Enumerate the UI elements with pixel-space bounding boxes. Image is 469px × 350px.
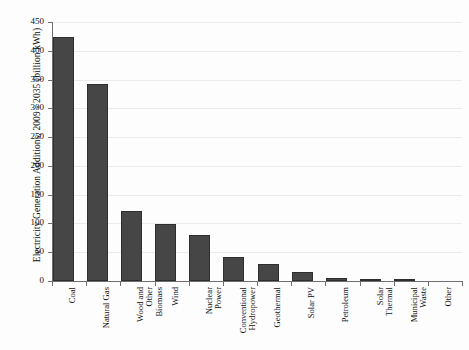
y-tick-label: 400 — [4, 46, 44, 55]
x-axis-tick-labels: CoalNatural GasWood andOtherBiomassWindN… — [52, 287, 462, 349]
y-tick-mark — [48, 137, 52, 138]
bar — [394, 279, 415, 281]
x-tick-label: Coal — [68, 287, 77, 349]
y-tick-label: 100 — [4, 218, 44, 227]
bars-layer — [52, 22, 462, 281]
y-tick-label: 250 — [4, 132, 44, 141]
x-tick-label: ConventionalHydropower — [239, 287, 258, 349]
bar — [292, 272, 313, 281]
x-tick-mark — [394, 281, 395, 286]
x-tick-label: MunicipalWaste — [410, 287, 429, 349]
bar — [223, 257, 244, 281]
x-tick-mark — [189, 281, 190, 286]
x-tick-mark — [86, 281, 87, 286]
y-tick-mark — [48, 195, 52, 196]
y-tick-label: 350 — [4, 75, 44, 84]
y-tick-label: 450 — [4, 17, 44, 26]
bar — [155, 224, 176, 281]
x-tick-mark — [257, 281, 258, 286]
x-tick-label: Natural Gas — [102, 287, 111, 349]
bar — [189, 235, 210, 281]
bar — [326, 278, 347, 281]
y-tick-mark — [48, 51, 52, 52]
x-tick-mark — [462, 281, 463, 286]
y-tick-label: 300 — [4, 103, 44, 112]
x-tick-label: Petroleum — [341, 287, 350, 349]
bar — [87, 84, 108, 281]
y-tick-mark — [48, 108, 52, 109]
y-tick-label: 50 — [4, 247, 44, 256]
x-tick-mark — [360, 281, 361, 286]
y-tick-label: 150 — [4, 190, 44, 199]
x-tick-label: NuclearPower — [205, 287, 224, 349]
bar — [121, 211, 142, 281]
x-tick-mark — [325, 281, 326, 286]
x-tick-label: Geothermal — [273, 287, 282, 349]
bar-chart: Electricity Generation Additions, 2009 -… — [0, 0, 469, 350]
y-axis-tick-labels: 050100150200250300350400450 — [0, 0, 46, 350]
y-tick-mark — [48, 252, 52, 253]
y-tick-mark — [48, 22, 52, 23]
y-tick-mark — [48, 166, 52, 167]
x-tick-label: Wood andOtherBiomass — [136, 287, 164, 349]
x-tick-label: Wind — [171, 287, 180, 349]
x-tick-label: Solar PV — [307, 287, 316, 349]
x-tick-mark — [428, 281, 429, 286]
x-tick-mark — [120, 281, 121, 286]
bar — [258, 264, 279, 281]
bar — [360, 279, 381, 281]
y-tick-label: 200 — [4, 161, 44, 170]
x-tick-mark — [223, 281, 224, 286]
bar — [53, 37, 74, 281]
x-tick-label: SolarThermal — [376, 287, 395, 349]
x-tick-mark — [155, 281, 156, 286]
x-tick-label: Other — [444, 287, 453, 349]
x-tick-mark — [52, 281, 53, 286]
y-tick-label: 0 — [4, 276, 44, 285]
y-tick-mark — [48, 223, 52, 224]
y-tick-mark — [48, 80, 52, 81]
x-tick-mark — [291, 281, 292, 286]
